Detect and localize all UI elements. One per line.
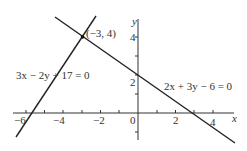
x-tick-label: 4 — [210, 116, 216, 128]
x-tick-label: 2 — [173, 114, 179, 126]
coordinate-plane: −6 −4 −2 0 2 4 x 4 2 y (−3, 4) 3x − 2y +… — [0, 0, 247, 151]
x-tick-label: −6 — [14, 114, 26, 126]
equation-label-1: 3x − 2y + 17 = 0 — [16, 69, 90, 81]
y-tick-label: 4 — [130, 31, 136, 43]
origin-label: 0 — [130, 114, 136, 126]
intersection-label: (−3, 4) — [86, 27, 116, 40]
x-axis-label: x — [231, 112, 237, 124]
y-tick-label: 2 — [130, 76, 136, 88]
y-axis-label: y — [131, 15, 137, 27]
x-tick-label: −2 — [93, 114, 105, 126]
x-tick-label: −4 — [53, 114, 65, 126]
equation-label-2: 2x + 3y − 6 = 0 — [164, 80, 233, 92]
intersection-point — [81, 35, 85, 39]
